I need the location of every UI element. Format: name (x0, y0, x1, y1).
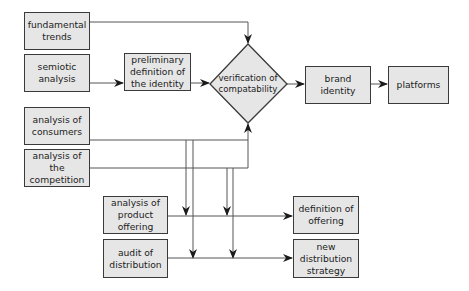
node-audit-of-distribution: audit of distribution (103, 239, 168, 278)
node-label: analysis of consumers (27, 114, 87, 138)
node-platforms: platforms (388, 66, 449, 104)
node-definition-of-offering: definition of offering (293, 196, 359, 234)
node-fundamental-trends: fundamental trends (24, 12, 90, 50)
node-label: verification of compatability (214, 73, 282, 95)
node-label: analysis of the competition (27, 150, 87, 186)
node-label: analysis of product offering (106, 197, 165, 233)
node-brand-identity: brand identity (305, 66, 371, 104)
node-analysis-of-product-offering: analysis of product offering (103, 196, 168, 234)
node-label: new distribution strategy (296, 241, 356, 277)
node-label: fundamental trends (27, 19, 87, 43)
node-analysis-of-consumers: analysis of consumers (24, 107, 90, 145)
node-semiotic-analysis: semiotic analysis (24, 54, 90, 92)
node-label: audit of distribution (106, 247, 165, 271)
node-analysis-of-the-competition: analysis of the competition (24, 149, 90, 187)
edge-trends-to-verification (89, 22, 248, 43)
node-label: semiotic analysis (27, 61, 87, 85)
node-label: definition of offering (296, 203, 356, 227)
node-verification-of-compatability: verification of compatability (214, 64, 282, 104)
edge-competition-to-verification (89, 140, 248, 168)
node-label: brand identity (308, 73, 368, 97)
node-label: preliminary definition of the identity (127, 54, 188, 90)
node-label: platforms (397, 79, 441, 91)
edge-consumers-to-verification (89, 124, 248, 140)
node-preliminary-definition: preliminary definition of the identity (124, 53, 191, 91)
node-new-distribution-strategy: new distribution strategy (293, 239, 359, 278)
